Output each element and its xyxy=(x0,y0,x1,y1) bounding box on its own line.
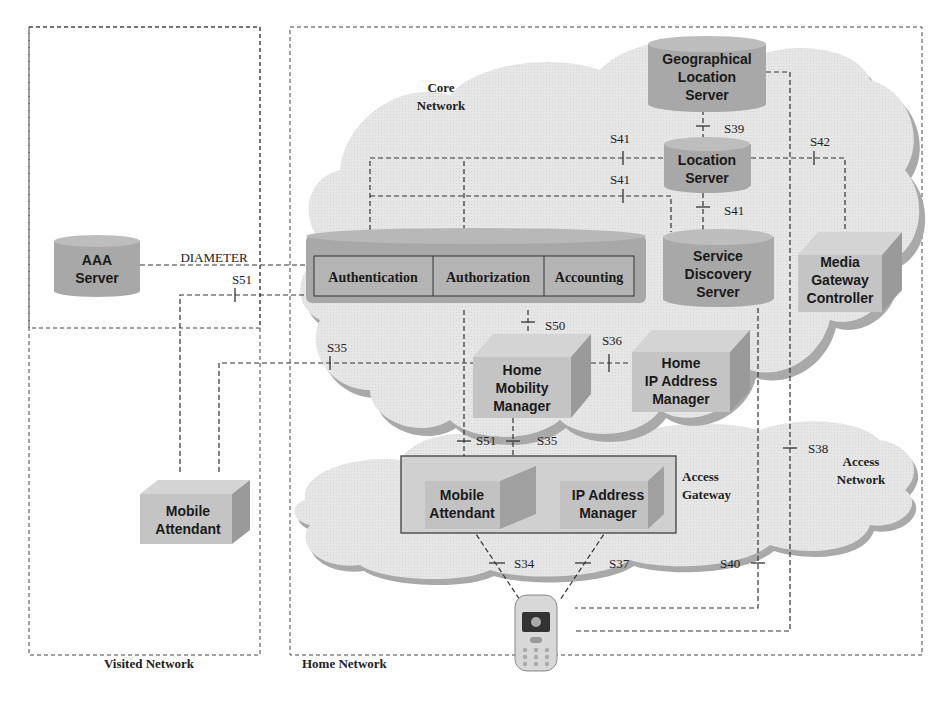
svg-text:Attendant: Attendant xyxy=(429,505,495,521)
svg-text:Gateway: Gateway xyxy=(811,272,869,288)
svg-text:Attendant: Attendant xyxy=(155,521,221,537)
service-discovery-server[interactable]: Service Discovery Server xyxy=(663,229,774,307)
aaa-server-label: AAA xyxy=(82,252,112,268)
accounting-label: Accounting xyxy=(555,270,623,285)
aaa-function-block[interactable]: Authentication Authorization Accounting xyxy=(306,228,646,303)
svg-text:IP Address: IP Address xyxy=(645,373,718,389)
svg-text:Mobile: Mobile xyxy=(440,487,485,503)
s41-label-a: S41 xyxy=(610,131,630,146)
svg-text:Mobile: Mobile xyxy=(166,503,211,519)
visited-network-region xyxy=(29,27,260,655)
media-gateway-controller[interactable]: Media Gateway Controller xyxy=(798,232,902,312)
access-network-label-2: Network xyxy=(837,472,886,487)
s37-label: S37 xyxy=(609,556,630,571)
svg-text:Discovery: Discovery xyxy=(685,266,752,282)
svg-text:Server: Server xyxy=(75,270,119,286)
svg-text:Server: Server xyxy=(685,170,729,186)
s38-label: S38 xyxy=(808,441,828,456)
core-network-label: Core xyxy=(427,80,454,95)
core-network-label-2: Network xyxy=(417,98,466,113)
aaa-server[interactable]: AAA Server xyxy=(54,235,140,297)
svg-text:IP Address: IP Address xyxy=(572,487,645,503)
svg-text:Mobility: Mobility xyxy=(496,380,549,396)
svg-text:Location: Location xyxy=(678,152,736,168)
s39-label: S39 xyxy=(724,121,744,136)
svg-text:Server: Server xyxy=(685,87,729,103)
home-mobility-manager[interactable]: Home Mobility Manager xyxy=(473,334,591,418)
svg-text:Geographical: Geographical xyxy=(662,51,751,67)
svg-text:Service: Service xyxy=(693,248,743,264)
authorization-label: Authorization xyxy=(446,270,530,285)
s51-top-label: S51 xyxy=(232,272,252,287)
svg-text:Controller: Controller xyxy=(807,290,874,306)
s41-label-b: S41 xyxy=(610,172,630,187)
svg-text:Server: Server xyxy=(696,284,740,300)
svg-text:Home: Home xyxy=(503,362,542,378)
svg-text:Manager: Manager xyxy=(579,505,637,521)
s40-label: S40 xyxy=(720,556,740,571)
mobile-phone-icon[interactable] xyxy=(515,595,557,671)
svg-text:Manager: Manager xyxy=(652,391,710,407)
s34-label: S34 xyxy=(514,556,535,571)
diameter-label: DIAMETER xyxy=(180,250,247,265)
s50-label: S50 xyxy=(545,318,565,333)
s41-label-c: S41 xyxy=(724,203,744,218)
authentication-label: Authentication xyxy=(328,270,418,285)
visited-network-label: Visited Network xyxy=(104,656,195,671)
access-gateway-label: Access xyxy=(682,469,719,484)
svg-text:Location: Location xyxy=(678,69,736,85)
s51-bottom-label: S51 xyxy=(476,433,496,448)
svg-text:Home: Home xyxy=(662,355,701,371)
access-network-label: Access xyxy=(843,454,880,469)
svg-text:Media: Media xyxy=(820,254,860,270)
home-ip-address-manager[interactable]: Home IP Address Manager xyxy=(632,330,750,412)
s35-bottom-label: S35 xyxy=(537,433,557,448)
visited-mobile-attendant[interactable]: Mobile Attendant xyxy=(140,480,250,544)
home-network-label: Home Network xyxy=(302,656,388,671)
geographical-location-server[interactable]: Geographical Location Server xyxy=(648,36,766,112)
svg-text:Gateway: Gateway xyxy=(682,487,732,502)
location-server[interactable]: Location Server xyxy=(664,137,751,193)
s35-left-label: S35 xyxy=(327,340,347,355)
network-architecture-diagram: Core Network Access Network Visited Netw… xyxy=(0,0,948,713)
s36-label: S36 xyxy=(602,333,623,348)
s42-label: S42 xyxy=(810,134,830,149)
svg-text:Manager: Manager xyxy=(493,398,551,414)
